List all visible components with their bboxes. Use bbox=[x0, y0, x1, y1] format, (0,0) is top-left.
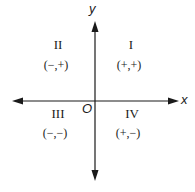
origin-label: O bbox=[82, 101, 92, 116]
y-axis-up-arrow-icon bbox=[92, 21, 99, 32]
y-axis-label: y bbox=[89, 1, 96, 16]
quadrant-iv-label: IV bbox=[125, 106, 139, 122]
quadrant-iii-signs: (−,−) bbox=[43, 126, 68, 141]
quadrant-ii-signs: (−,+) bbox=[44, 58, 69, 73]
quadrant-i-label: I bbox=[129, 37, 133, 53]
y-axis-down-arrow-icon bbox=[92, 170, 99, 181]
quadrant-iv-signs: (+,−) bbox=[116, 126, 141, 141]
quadrant-ii-label: II bbox=[54, 37, 63, 53]
quadrant-iii-label: III bbox=[52, 106, 65, 122]
x-axis-label: x bbox=[181, 92, 188, 107]
quadrant-i-signs: (+,+) bbox=[117, 58, 142, 73]
x-axis-right-arrow-icon bbox=[168, 98, 179, 105]
axes-drawing bbox=[0, 0, 195, 192]
x-axis-left-arrow-icon bbox=[12, 98, 23, 105]
